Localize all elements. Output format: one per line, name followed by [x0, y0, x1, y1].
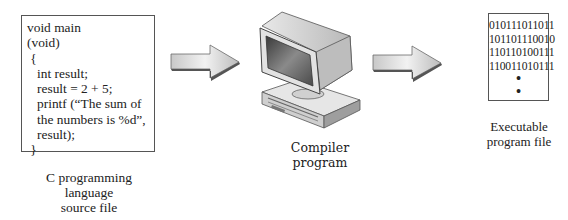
caption-line: language: [30, 185, 148, 200]
caption-line: source file: [30, 200, 148, 215]
code-line: }: [27, 142, 154, 157]
ellipsis-dot: •: [489, 86, 548, 99]
caption-line: Executable: [472, 119, 566, 134]
code-line: int result;: [27, 66, 154, 81]
compiler-caption: Compiler program: [282, 140, 358, 170]
code-line: printf (“The sum of: [27, 96, 154, 111]
code-line: result);: [27, 127, 154, 142]
code-line: (void): [27, 35, 154, 50]
source-file-caption: C programming language source file: [30, 170, 148, 215]
caption-line: C programming: [30, 170, 148, 185]
code-line: result = 2 + 5;: [27, 81, 154, 96]
executable-caption: Executable program file: [472, 119, 566, 149]
binary-line: 101101110010: [489, 33, 548, 47]
computer-icon: [258, 6, 364, 134]
right-arrow-icon: [168, 42, 244, 82]
caption-line: Compiler: [282, 140, 358, 155]
code-line: {: [27, 51, 154, 66]
code-line: void main: [27, 20, 154, 35]
code-line: the numbers is %d”,: [27, 112, 154, 127]
caption-line: program file: [472, 134, 566, 149]
binary-line: 110110100111: [489, 46, 548, 60]
caption-line: program: [282, 155, 358, 170]
source-code-box: void main (void) { int result; result = …: [21, 15, 155, 152]
right-arrow-icon: [370, 43, 446, 83]
executable-file-box: 010111011011 101101110010 110110100111 1…: [488, 13, 549, 101]
binary-line: 010111011011: [489, 19, 548, 33]
